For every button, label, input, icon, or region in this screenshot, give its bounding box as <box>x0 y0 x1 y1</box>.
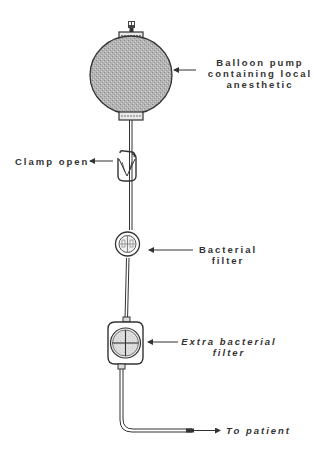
bacterial-filter-label: Bacterial filter <box>196 244 260 266</box>
clamp <box>118 151 136 181</box>
clamp-label: Clamp open <box>15 156 89 167</box>
infusion-diagram: Balloon pump containing local anesthetic… <box>0 0 314 453</box>
extra-bacterial-filter <box>108 317 143 369</box>
balloon-label: Balloon pump containing local anesthetic <box>206 57 314 90</box>
to-patient-label: To patient <box>226 425 291 436</box>
bacterial-filter <box>116 232 140 256</box>
extra-bacterial-filter-label: Extra bacterial filter <box>181 336 277 358</box>
balloon-pump <box>90 36 172 114</box>
balloon-bottom-cap <box>119 112 143 120</box>
